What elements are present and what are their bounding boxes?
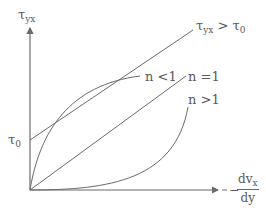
shear-thinning-label: n <1 bbox=[145, 70, 177, 83]
newtonian-line bbox=[30, 76, 186, 190]
y-axis-label: τyx bbox=[18, 8, 35, 24]
newtonian-label: n =1 bbox=[188, 70, 220, 83]
shear-thickening-label: n >1 bbox=[188, 93, 220, 106]
shear-thinning-curve bbox=[30, 76, 140, 190]
bingham-label: τyx > τ0 bbox=[196, 19, 245, 35]
shear-thickening-curve bbox=[30, 107, 188, 190]
x-axis-label: dvx dy bbox=[237, 172, 259, 205]
tau0-intercept-label: τ0 bbox=[8, 133, 21, 149]
